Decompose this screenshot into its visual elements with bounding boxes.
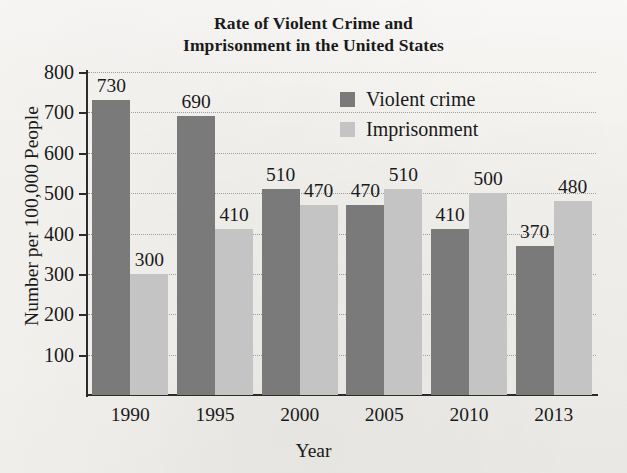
- bar-value-label: 690: [171, 92, 221, 112]
- chart-legend: Violent crime Imprisonment: [340, 84, 478, 144]
- x-axis-tick-label: 1990: [88, 405, 173, 425]
- legend-item-imprisonment: Imprisonment: [340, 114, 478, 144]
- bar-value-label: 410: [425, 205, 475, 225]
- x-axis-tick-label: 2013: [511, 405, 596, 425]
- bar-violent-crime-2000: [262, 189, 300, 395]
- y-axis-tick: [79, 72, 86, 74]
- x-axis-label: Year: [0, 440, 627, 462]
- legend-label-imprisonment: Imprisonment: [366, 119, 478, 139]
- bar-violent-crime-2010: [431, 229, 469, 395]
- y-axis-tick-label: 200: [28, 304, 74, 324]
- y-axis-tick-label: 400: [28, 224, 74, 244]
- legend-label-violent-crime: Violent crime: [366, 89, 475, 109]
- y-axis-tick-label: 700: [28, 102, 74, 122]
- y-axis-tick: [79, 193, 86, 195]
- y-axis-tick: [79, 153, 86, 155]
- y-axis-tick-label: 600: [28, 143, 74, 163]
- y-axis-tick: [79, 314, 86, 316]
- bar-imprisonment-2000: [300, 205, 338, 395]
- bar-value-label: 480: [548, 177, 598, 197]
- chart-title-line-2: Imprisonment in the United States: [0, 34, 627, 56]
- legend-item-violent-crime: Violent crime: [340, 84, 478, 114]
- chart-figure: Rate of Violent Crime and Imprisonment i…: [0, 0, 627, 473]
- y-axis-tick: [79, 274, 86, 276]
- x-axis-tick-label: 1995: [173, 405, 258, 425]
- legend-swatch-icon-violent-crime: [340, 92, 355, 107]
- bar-value-label: 470: [294, 181, 344, 201]
- bar-imprisonment-2005: [384, 189, 422, 395]
- gridline: [88, 153, 596, 154]
- legend-swatch-icon-imprisonment: [340, 122, 355, 137]
- bar-violent-crime-2013: [516, 246, 554, 395]
- bar-imprisonment-1995: [215, 229, 253, 395]
- y-axis-tick: [79, 234, 86, 236]
- bar-value-label: 370: [510, 222, 560, 242]
- x-axis-tick-label: 2000: [257, 405, 342, 425]
- x-axis-tick-label: 2005: [342, 405, 427, 425]
- chart-title-line-1: Rate of Violent Crime and: [0, 12, 627, 34]
- gridline: [88, 72, 596, 73]
- bar-violent-crime-2005: [346, 205, 384, 395]
- bar-violent-crime-1990: [92, 100, 130, 395]
- x-axis-tick-label: 2010: [427, 405, 512, 425]
- y-axis-tick-label: 500: [28, 183, 74, 203]
- y-axis-tick-label: 100: [28, 345, 74, 365]
- bar-value-label: 410: [209, 205, 259, 225]
- bar-violent-crime-1995: [177, 116, 215, 395]
- y-axis-tick-label: 300: [28, 264, 74, 284]
- bar-value-label: 500: [463, 169, 513, 189]
- y-axis-tick-label: 800: [28, 62, 74, 82]
- chart-title: Rate of Violent Crime and Imprisonment i…: [0, 12, 627, 56]
- bar-value-label: 730: [86, 76, 136, 96]
- bar-value-label: 300: [124, 250, 174, 270]
- y-axis-tick: [79, 112, 86, 114]
- y-axis-tick: [79, 355, 86, 357]
- bar-imprisonment-1990: [130, 274, 168, 395]
- bar-value-label: 510: [378, 165, 428, 185]
